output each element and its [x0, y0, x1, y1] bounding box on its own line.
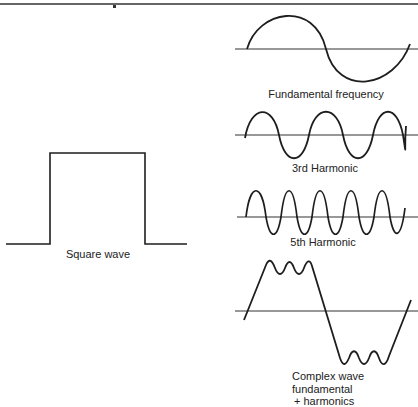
- complex-label-line-2: fundamental: [292, 383, 353, 396]
- complex-wave: [244, 261, 411, 364]
- complex-label-line-3: + harmonics: [294, 395, 354, 407]
- square-wave-label: Square wave: [66, 248, 130, 261]
- fifth-harmonic-wave: [246, 191, 405, 235]
- complex-label-line-1: Complex wave: [292, 370, 364, 383]
- fifth-harmonic-label: 5th Harmonic: [290, 236, 355, 249]
- square-wave: [6, 153, 187, 244]
- fundamental-label: Fundamental frequency: [268, 88, 384, 101]
- third-harmonic-label: 3rd Harmonic: [292, 162, 358, 175]
- waveform-diagram: [0, 0, 418, 407]
- top-rule-fragment: [113, 5, 116, 8]
